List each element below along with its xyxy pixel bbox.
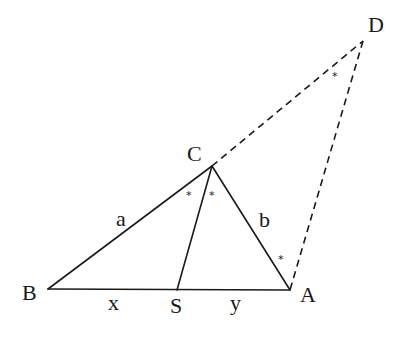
segment-DA-dashed bbox=[290, 41, 363, 290]
angle-mark-C-right: * bbox=[209, 189, 215, 202]
angle-mark-A: * bbox=[278, 253, 284, 266]
side-label-y: y bbox=[230, 290, 241, 315]
segment-BC bbox=[48, 166, 212, 289]
angle-mark-C-left: * bbox=[186, 189, 192, 202]
vertex-label-B: B bbox=[22, 280, 37, 305]
geometry-diagram: B A C D S a b x y * * * * bbox=[0, 0, 411, 341]
vertex-label-C: C bbox=[187, 141, 202, 166]
vertex-label-S: S bbox=[170, 293, 182, 318]
segment-CA bbox=[212, 166, 290, 290]
segment-CS-bisector bbox=[177, 166, 212, 290]
segment-CD-dashed bbox=[212, 41, 363, 166]
side-label-x: x bbox=[108, 290, 119, 315]
angle-mark-D: * bbox=[332, 70, 338, 83]
segment-BA bbox=[48, 289, 290, 290]
vertex-label-A: A bbox=[300, 282, 316, 307]
side-label-a: a bbox=[116, 206, 126, 231]
side-label-b: b bbox=[259, 207, 270, 232]
vertex-label-D: D bbox=[368, 12, 384, 37]
